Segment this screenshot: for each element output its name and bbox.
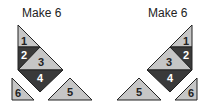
piece-label: 6 [188, 87, 194, 99]
piece-label: 5 [67, 86, 73, 98]
puzzle-diagram: Make 6 123456 Make 6 123456 [0, 0, 210, 107]
piece-label: 1 [21, 35, 27, 47]
piece-label: 3 [166, 56, 172, 68]
piece-4: 4 [147, 70, 192, 92]
piece-label: 3 [38, 56, 44, 68]
figure-title: Make 6 [22, 6, 62, 20]
piece-label: 4 [167, 72, 174, 84]
piece-5: 5 [117, 78, 161, 100]
piece-label: 2 [183, 49, 189, 61]
piece-label: 2 [21, 49, 27, 61]
piece-label: 5 [136, 86, 142, 98]
piece-label: 6 [15, 87, 21, 99]
figure-title: Make 6 [148, 6, 188, 20]
piece-label: 1 [183, 35, 189, 47]
piece-4: 4 [18, 70, 63, 92]
figure-left: Make 6 123456 [12, 6, 92, 100]
piece-1: 1 [170, 25, 192, 47]
piece-5: 5 [48, 78, 92, 100]
piece-1: 1 [18, 25, 40, 47]
piece-label: 4 [37, 72, 44, 84]
figure-right: Make 6 123456 [117, 6, 197, 100]
